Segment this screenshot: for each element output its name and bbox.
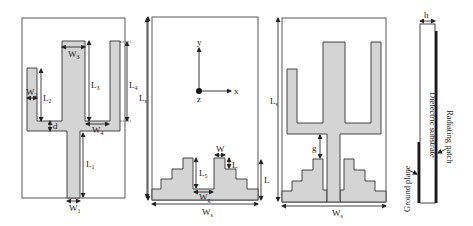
label-w1: W1 xyxy=(69,203,81,214)
label-radiating-patch: Radiating patch xyxy=(445,110,455,164)
label-d: d xyxy=(53,121,58,131)
axis-y-label: y xyxy=(197,37,202,47)
label-l4: L4 xyxy=(129,80,138,91)
label-ws: Ws xyxy=(202,207,214,218)
panel-d-side-view: h Dielectric substrate Radiating patch G… xyxy=(402,10,455,212)
label-l-step: L xyxy=(232,160,238,170)
axis-x-label: x xyxy=(234,86,239,96)
panel-b-bottom-view: y x z W L L5 Wg L Ws xyxy=(148,17,270,218)
label-l-ground: L xyxy=(264,175,270,185)
ground-plane-layer xyxy=(418,142,421,203)
label-dielectric-substrate: Dielectric substrate xyxy=(428,92,438,158)
label-h: h xyxy=(424,10,429,20)
axis-z-label: z xyxy=(197,94,201,104)
antenna-geometry-figure: W3 L3 L4 Ls W2 L2 d W4 L1 W1 xyxy=(0,0,473,226)
label-ws: Ws xyxy=(332,208,344,219)
label-ls: Ls xyxy=(270,96,279,107)
label-ls: Ls xyxy=(139,93,148,104)
label-g: g xyxy=(312,143,317,153)
panel-c-combined-view: Ls g Ws xyxy=(270,18,386,219)
label-w-step: W xyxy=(216,144,225,154)
panel-a-top-view: W3 L3 L4 Ls W2 L2 d W4 L1 W1 xyxy=(22,18,148,214)
label-ground-plane: Ground plane xyxy=(402,165,412,212)
